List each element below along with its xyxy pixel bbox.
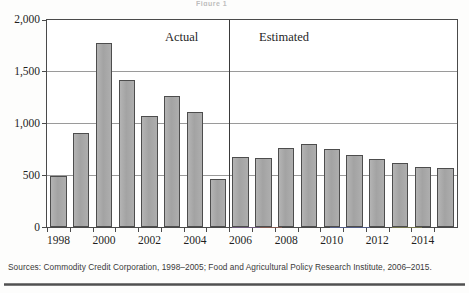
- annotation-estimated: Estimated: [259, 30, 309, 45]
- scan-artifact-3: [330, 227, 370, 228]
- annotation-actual: Actual: [165, 30, 198, 45]
- x-tick-2008: [275, 228, 276, 232]
- bar-2012: [369, 159, 385, 227]
- period-divider: [229, 20, 230, 227]
- bar-1998: [50, 176, 66, 227]
- x-tick-label-2014: 2014: [403, 234, 443, 247]
- x-tick-2005: [206, 228, 207, 232]
- scan-artifact-4: [392, 227, 422, 228]
- bar-2008: [278, 148, 294, 227]
- x-tick-label-2012: 2012: [357, 234, 397, 247]
- bar-2001: [119, 80, 135, 227]
- bar-2006: [232, 157, 248, 227]
- bar-2014: [415, 167, 431, 227]
- bar-2013: [392, 163, 408, 227]
- bar-2000: [96, 43, 112, 227]
- x-tick-2002: [138, 228, 139, 232]
- bar-2007: [255, 158, 271, 227]
- x-tick-label-2006: 2006: [221, 234, 261, 247]
- y-tick-label-500: 500: [0, 170, 40, 181]
- x-tick-2014: [411, 228, 412, 232]
- x-tick-label-2008: 2008: [266, 234, 306, 247]
- x-tick-label-2010: 2010: [312, 234, 352, 247]
- x-tick-1998: [47, 228, 48, 232]
- figure-title-fragment: Figure 1: [196, 0, 266, 6]
- x-tick-2013: [389, 228, 390, 232]
- plot-area: Actual Estimated: [46, 19, 458, 228]
- bar-2011: [346, 155, 362, 227]
- y-tick-label-1500: 1,500: [0, 66, 40, 77]
- x-tick-label-1998: 1998: [38, 234, 78, 247]
- bar-2004: [187, 112, 203, 227]
- x-tick-label-2004: 2004: [175, 234, 215, 247]
- x-tick-2009: [298, 228, 299, 232]
- bar-2003: [164, 96, 180, 227]
- figure-root: Figure 1 2,000 1,500 1,000 500 0 Actual …: [0, 0, 469, 293]
- x-tick-2010: [320, 228, 321, 232]
- scan-artifact-2: [260, 227, 282, 228]
- x-tick-2000: [93, 228, 94, 232]
- x-tick-2004: [184, 228, 185, 232]
- bar-2015: [437, 168, 453, 227]
- scan-artifact-1: [232, 227, 260, 228]
- bar-1999: [73, 133, 89, 227]
- x-tick-2003: [161, 228, 162, 232]
- bar-2005: [210, 179, 226, 227]
- y-tick-label-0: 0: [0, 222, 40, 233]
- x-tick-1999: [70, 228, 71, 232]
- x-tick-label-2002: 2002: [130, 234, 170, 247]
- x-tick-label-2000: 2000: [84, 234, 124, 247]
- x-tick-2001: [115, 228, 116, 232]
- bar-2002: [141, 116, 157, 227]
- bar-2009: [301, 144, 317, 227]
- y-axis-labels: 2,000 1,500 1,000 500 0: [0, 19, 40, 228]
- y-tick-label-1000: 1,000: [0, 118, 40, 129]
- source-note: Sources: Commodity Credit Corporation, 1…: [8, 262, 463, 272]
- x-tick-2011: [343, 228, 344, 232]
- y-tick-label-2000: 2,000: [0, 14, 40, 25]
- x-tick-2006: [229, 228, 230, 232]
- bottom-rule: [4, 283, 465, 286]
- bar-2010: [324, 149, 340, 227]
- x-tick-2007: [252, 228, 253, 232]
- x-tick-2015: [434, 228, 435, 232]
- bars-layer: [47, 20, 457, 227]
- x-tick-2012: [366, 228, 367, 232]
